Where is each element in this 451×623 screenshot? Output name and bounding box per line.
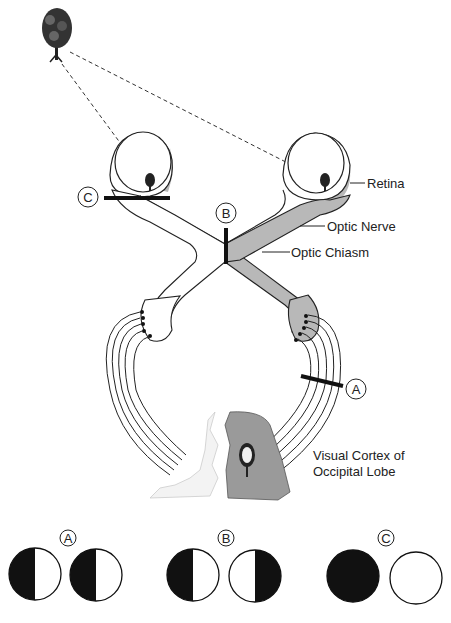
marker-b: B xyxy=(216,203,236,223)
svg-text:B: B xyxy=(222,206,231,221)
svg-text:C: C xyxy=(381,531,390,546)
label-visual-cortex-2: Occipital Lobe xyxy=(313,464,395,479)
field-defect-b: B xyxy=(167,530,281,602)
left-optic-radiations xyxy=(106,312,186,475)
svg-text:A: A xyxy=(352,382,361,397)
visual-pathway-diagram: C B A Retina Optic Nerve Optic Chiasm Vi… xyxy=(0,0,451,623)
marker-c: C xyxy=(78,187,98,207)
lesion-bar-a xyxy=(301,376,343,386)
field-defect-a: A xyxy=(9,530,122,601)
right-occipital-lobe xyxy=(225,412,290,500)
left-occipital-lobe xyxy=(150,412,218,498)
svg-text:B: B xyxy=(222,531,231,546)
label-visual-cortex-1: Visual Cortex of xyxy=(313,448,405,463)
tree-icon xyxy=(42,8,72,62)
label-optic-nerve: Optic Nerve xyxy=(327,219,396,234)
left-lgn xyxy=(141,296,180,341)
left-eye xyxy=(110,132,172,197)
svg-text:C: C xyxy=(83,190,92,205)
marker-a: A xyxy=(346,379,366,399)
right-eye xyxy=(283,133,350,200)
svg-text:A: A xyxy=(64,531,73,546)
field-defect-c: C xyxy=(327,530,442,604)
label-optic-chiasm: Optic Chiasm xyxy=(291,245,369,260)
right-lgn xyxy=(288,295,318,341)
label-retina: Retina xyxy=(367,176,405,191)
